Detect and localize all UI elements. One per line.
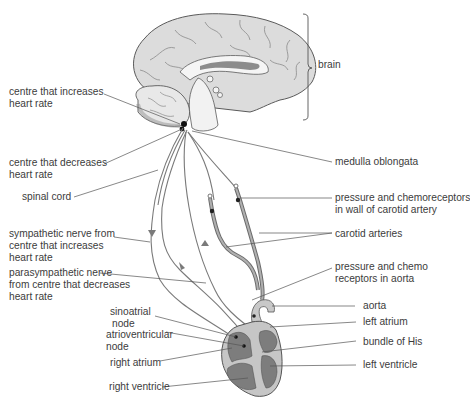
label-carotid-receptors-line1: pressure and chemoreceptors — [335, 192, 470, 204]
diagram-canvas: brain centre that increases heart rate c… — [0, 0, 470, 402]
label-aorta-receptors-line2: receptors in aorta — [335, 273, 414, 285]
label-atrioventricular-line1: atrioventricular — [106, 329, 173, 341]
label-carotid-arteries: carotid arteries — [335, 228, 402, 240]
label-medulla-oblongata: medulla oblongata — [335, 156, 418, 168]
label-sympathetic-line1: sympathetic nerve from — [9, 228, 115, 240]
label-carotid-receptors-line2: in wall of carotid artery — [335, 204, 437, 216]
label-right-ventricle: right ventricle — [109, 381, 170, 393]
label-parasympathetic-line2: from centre that decreases — [9, 279, 130, 291]
label-aorta-receptors-line1: pressure and chemo — [335, 261, 428, 273]
label-centre-increases-line2: heart rate — [9, 98, 53, 110]
label-brain: brain — [318, 59, 341, 71]
label-centre-increases-line1: centre that increases — [9, 86, 104, 98]
brain-illustration — [134, 14, 316, 132]
carotid-arteries — [208, 184, 263, 300]
label-spinal-cord: spinal cord — [22, 191, 71, 203]
label-centre-decreases-line2: heart rate — [9, 169, 53, 181]
label-parasympathetic-line3: heart rate — [9, 291, 53, 303]
label-left-ventricle: left ventricle — [363, 359, 417, 371]
label-right-atrium: right atrium — [110, 357, 161, 369]
label-aorta: aorta — [363, 300, 386, 312]
label-sympathetic-line3: heart rate — [9, 252, 53, 264]
label-bundle-of-his: bundle of His — [363, 336, 422, 348]
label-centre-decreases-line1: centre that decreases — [9, 157, 107, 169]
label-parasympathetic-line1: parasympathetic nerve — [9, 267, 112, 279]
label-atrioventricular-line2: node — [106, 341, 129, 353]
label-left-atrium: left atrium — [363, 316, 408, 328]
label-sympathetic-line2: centre that increases — [9, 240, 104, 252]
nerves — [151, 128, 260, 345]
label-sinoatrial-line1: sinoatrial — [110, 306, 151, 318]
nerve-arrows — [148, 230, 209, 270]
